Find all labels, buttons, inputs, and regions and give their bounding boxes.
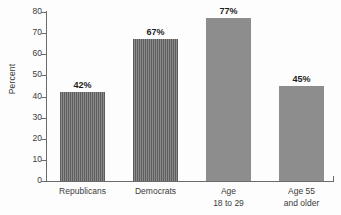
x-tick-label-line1: Republicans xyxy=(59,186,106,196)
y-tick: 40 xyxy=(0,97,54,98)
bar-item: 45% xyxy=(279,68,324,181)
y-tick-mark xyxy=(41,181,47,182)
y-tick-label: 70 xyxy=(33,27,42,37)
y-tick-mark xyxy=(41,139,47,140)
y-tick: 20 xyxy=(0,139,54,140)
x-tick-label: Republicans xyxy=(42,186,123,198)
x-axis-end-cap xyxy=(333,176,334,182)
y-tick: 70 xyxy=(0,33,54,34)
y-tick-label: 50 xyxy=(33,69,42,79)
bar-value-label: 45% xyxy=(279,74,324,84)
bar-value-label: 67% xyxy=(133,27,178,37)
bar-value-label: 42% xyxy=(60,80,105,90)
bar xyxy=(60,92,105,181)
y-tick: 10 xyxy=(0,160,54,161)
y-tick-label: 60 xyxy=(33,48,42,58)
x-tick-label-line1: Democrats xyxy=(135,186,176,196)
y-tick-label: 80 xyxy=(33,6,42,16)
x-tick-label-line1: Age 55 xyxy=(288,186,315,196)
bar-item: 77% xyxy=(206,0,251,181)
y-tick: 0 xyxy=(0,181,54,182)
x-tick-label-line1: Age xyxy=(221,186,236,196)
bar-value-label: 77% xyxy=(206,6,251,16)
y-tick-label: 0 xyxy=(37,175,42,185)
y-tick-mark xyxy=(41,33,47,34)
x-axis-line xyxy=(46,181,334,182)
x-tick-label-line2: 18 to 29 xyxy=(188,198,269,210)
y-tick: 50 xyxy=(0,75,54,76)
y-tick-label: 40 xyxy=(33,91,42,101)
x-tick-label: Democrats xyxy=(115,186,196,198)
y-tick-label: 10 xyxy=(33,154,42,164)
bar xyxy=(133,39,178,181)
y-tick-mark xyxy=(41,75,47,76)
y-tick-mark xyxy=(41,160,47,161)
x-tick-label: Age 55and older xyxy=(261,186,341,209)
y-tick-mark xyxy=(41,54,47,55)
y-tick: 30 xyxy=(0,118,54,119)
bar xyxy=(279,86,324,181)
x-tick-label-line2: and older xyxy=(261,198,341,210)
x-tick-label: Age18 to 29 xyxy=(188,186,269,209)
y-tick: 80 xyxy=(0,12,54,13)
bar-chart: Percent 80706050403020100 42%67%77%45% R… xyxy=(0,0,341,215)
bar xyxy=(206,18,251,181)
y-tick: 60 xyxy=(0,54,54,55)
y-tick-mark xyxy=(41,118,47,119)
y-tick-label: 30 xyxy=(33,112,42,122)
y-axis-title: Percent xyxy=(7,49,17,109)
y-tick-label: 20 xyxy=(33,133,42,143)
y-tick-mark xyxy=(41,97,47,98)
y-tick-mark xyxy=(41,12,47,13)
bar-item: 42% xyxy=(60,74,105,181)
bar-item: 67% xyxy=(133,21,178,181)
